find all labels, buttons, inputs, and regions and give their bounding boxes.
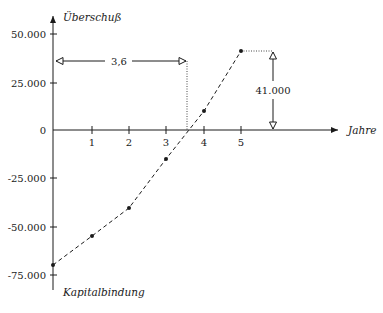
x-axis-title: Jahre — [346, 124, 376, 136]
y-tick-label: 0 — [40, 125, 46, 136]
y-tick-label: -75.000 — [8, 270, 46, 281]
x-tick-label: 3 — [163, 137, 169, 148]
payback-chart: 50.000 25.000 0 -25.000 -50.000 -75.000 … — [0, 0, 383, 313]
y-tick-label: 25.000 — [11, 78, 46, 89]
y-tick-label: -50.000 — [8, 222, 46, 233]
x-tick-label: 5 — [238, 137, 244, 148]
payback-label: 3,6 — [111, 56, 127, 67]
x-tick-label: 4 — [201, 137, 207, 148]
data-line — [53, 51, 241, 265]
y-tick-label: -25.000 — [8, 173, 46, 184]
x-tick-label: 1 — [89, 137, 95, 148]
bottom-label: Kapitalbindung — [62, 286, 145, 298]
final-value-label: 41.000 — [256, 85, 291, 96]
data-points — [51, 49, 243, 267]
x-tick-label: 2 — [126, 137, 132, 148]
y-tick-label: 50.000 — [11, 29, 46, 40]
y-axis-title: Überschuß — [63, 10, 122, 23]
